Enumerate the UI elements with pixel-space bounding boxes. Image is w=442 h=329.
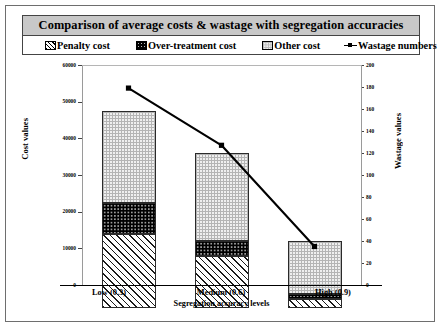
y-axis-right: 0 20 40 60 80 100 120 140 160 180 200 [360, 65, 382, 285]
y-tick-label-right: 40 [366, 239, 371, 244]
y-tick-label-right: 200 [366, 63, 374, 68]
chart-legend: Penalty cost Over-treatment cost Other c… [22, 36, 420, 55]
y-tick-label-left: 40000 [63, 136, 76, 141]
y-axis-left: 0 10000 20000 30000 40000 50000 60000 [48, 65, 82, 285]
line-marker [312, 244, 317, 249]
legend-label-other-cost: Other cost [274, 40, 320, 51]
plot-area: Cost values Wastage values 0 10000 20000… [22, 58, 420, 308]
hatch-swatch-icon [45, 41, 56, 50]
y-tick-label-left: 30000 [63, 173, 76, 178]
y-tick-label-left: 50000 [63, 99, 76, 104]
y-axis-left-title: Cost values [20, 118, 34, 160]
chart-title-bar: Comparison of average costs & wastage wi… [22, 15, 420, 36]
y-tick-label-right: 120 [366, 151, 374, 156]
chart-figure: Comparison of average costs & wastage wi… [0, 0, 442, 329]
line-marker-swatch-icon [344, 41, 357, 50]
legend-label-over-treatment-cost: Over-treatment cost [148, 40, 236, 51]
y-tick-label-left: 60000 [63, 63, 76, 68]
grid-swatch-icon [262, 41, 273, 50]
x-axis-title: Segregation accuracy levels [82, 299, 361, 308]
y-tick-label-left: 10000 [63, 246, 76, 251]
legend-item-wastage-numbers: Wastage numbers [344, 40, 437, 51]
x-axis-baseline [60, 285, 382, 286]
dotted-black-swatch-icon [136, 41, 147, 50]
y-tick-label-right: 140 [366, 129, 374, 134]
x-tick-label-high: High (0.9) [292, 289, 374, 297]
y-tick-label-right: 20 [366, 261, 371, 266]
wastage-line-series [82, 65, 361, 285]
legend-item-other-cost: Other cost [262, 40, 320, 51]
line-marker [126, 86, 131, 91]
legend-item-over-treatment-cost: Over-treatment cost [136, 40, 236, 51]
x-tick-label-low: Low (0.3) [68, 289, 150, 297]
legend-item-penalty-cost: Penalty cost [45, 40, 110, 51]
page-title: Comparison of average costs & wastage wi… [39, 19, 404, 31]
y-tick-label-right: 80 [366, 195, 371, 200]
y-axis-right-title: Wastage values [393, 113, 407, 169]
y-tick-label-right: 180 [366, 85, 374, 90]
y-tick-label-left: 20000 [63, 209, 76, 214]
x-tick-label-medium: Medium (0.6) [180, 289, 262, 297]
y-tick-label-right: 160 [366, 107, 374, 112]
legend-label-wastage-numbers: Wastage numbers [358, 40, 437, 51]
legend-label-penalty-cost: Penalty cost [57, 40, 110, 51]
y-tick-label-right: 100 [366, 173, 374, 178]
line-marker [219, 143, 224, 148]
y-tick-label-right: 60 [366, 217, 371, 222]
